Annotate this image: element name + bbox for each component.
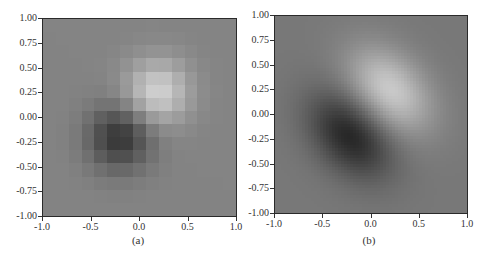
y-tick-mark bbox=[270, 89, 274, 90]
heatmap-b-cells bbox=[275, 16, 467, 213]
y-tick-label: -0.25 bbox=[233, 134, 269, 144]
x-tick-label: -0.5 bbox=[307, 219, 337, 229]
y-tick-label: 0.00 bbox=[233, 109, 269, 119]
y-tick-label: 0.50 bbox=[233, 60, 269, 70]
y-tick-label: -0.50 bbox=[233, 159, 269, 169]
y-tick-mark bbox=[270, 164, 274, 165]
y-tick-mark bbox=[270, 40, 274, 41]
y-tick-mark bbox=[270, 139, 274, 140]
x-tick-label: 1.0 bbox=[452, 219, 482, 229]
y-tick-label: 1.00 bbox=[233, 10, 269, 20]
x-tick-mark bbox=[322, 214, 323, 218]
y-tick-label: -1.00 bbox=[233, 208, 269, 218]
x-tick-mark bbox=[371, 214, 372, 218]
x-tick-mark bbox=[467, 214, 468, 218]
y-tick-label: 0.25 bbox=[233, 84, 269, 94]
x-tick-label: 0.5 bbox=[404, 219, 434, 229]
y-tick-label: -0.75 bbox=[233, 183, 269, 193]
x-tick-label: -1.0 bbox=[259, 219, 289, 229]
heatmap-cell bbox=[464, 210, 467, 213]
y-tick-mark bbox=[270, 65, 274, 66]
heatmap-b-plot-area bbox=[274, 15, 468, 214]
panel-b: 1.000.750.500.250.00-0.25-0.50-0.75-1.00… bbox=[0, 0, 485, 261]
x-tick-mark bbox=[274, 214, 275, 218]
x-tick-mark bbox=[419, 214, 420, 218]
y-tick-mark bbox=[270, 188, 274, 189]
y-tick-label: 0.75 bbox=[233, 35, 269, 45]
caption-b: (b) bbox=[349, 234, 389, 246]
x-tick-label: 0.0 bbox=[356, 219, 386, 229]
y-tick-mark bbox=[270, 15, 274, 16]
y-tick-mark bbox=[270, 114, 274, 115]
